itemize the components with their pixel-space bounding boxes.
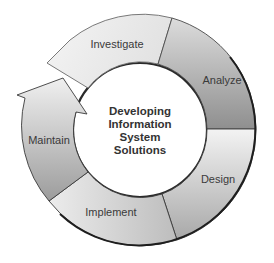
stage-label-analyze: Analyze — [202, 74, 241, 86]
center-title-line-2: Information — [108, 118, 171, 130]
center-title-line-4: Solutions — [114, 144, 166, 156]
stage-label-implement: Implement — [85, 206, 136, 218]
cycle-diagram: Investigate Analyze Design Implement Mai… — [0, 0, 274, 263]
stage-label-maintain: Maintain — [28, 134, 70, 146]
center-title-line-1: Developing — [109, 105, 171, 117]
stage-label-design: Design — [201, 173, 235, 185]
stage-label-investigate: Investigate — [90, 38, 143, 50]
center-circle — [73, 63, 207, 197]
center-title-line-3: System — [120, 131, 161, 143]
